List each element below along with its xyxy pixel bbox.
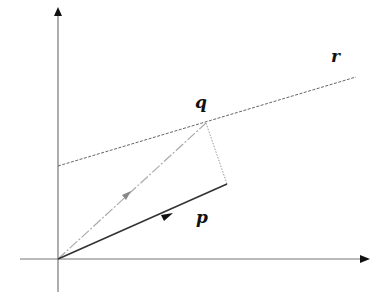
vector-p-arrow-icon [161,213,173,221]
line-r [58,77,356,166]
label-p: p [196,209,208,226]
label-q: q [195,94,207,111]
diagram-canvas [0,0,388,296]
label-r: r [331,48,340,65]
y-axis-arrow-icon [54,7,62,16]
x-axis-arrow-icon [360,255,370,263]
projection-line [206,123,227,184]
